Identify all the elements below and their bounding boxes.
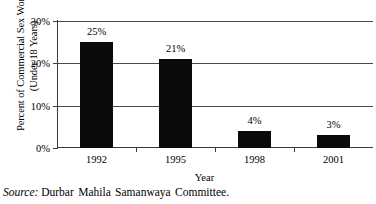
bar-chart-figure: Percent of Commercial Sex Workers (Under… — [0, 0, 376, 204]
y-axis-line — [57, 20, 58, 149]
bar-value-label: 3% — [327, 119, 341, 130]
y-tick-label: 30% — [31, 16, 50, 27]
bar — [238, 131, 271, 148]
plot-area: 0%10%20%30% 25%21%4%3% — [57, 21, 373, 148]
bar — [159, 59, 192, 148]
y-axis-title-line-1: Percent of Commercial Sex Workers — [14, 0, 27, 131]
x-tick-mark — [215, 148, 216, 152]
x-tick-mark — [294, 148, 295, 152]
y-tick-label: 20% — [31, 58, 50, 69]
bar-value-label: 25% — [87, 26, 106, 37]
source-note: Source: Durbar Mahila Samanwaya Committe… — [3, 186, 229, 198]
gridline — [57, 21, 373, 22]
x-tick-label: 1998 — [244, 154, 265, 165]
y-tick-mark — [53, 21, 57, 22]
bar — [80, 42, 113, 148]
y-tick-mark — [53, 148, 57, 149]
x-axis-title: Year — [0, 172, 376, 183]
y-tick-mark — [53, 106, 57, 107]
y-tick-mark — [53, 63, 57, 64]
x-tick-label: 1992 — [86, 154, 107, 165]
y-tick-label: 10% — [31, 100, 50, 111]
bar-value-label: 4% — [248, 115, 262, 126]
bar — [317, 135, 350, 148]
bar-value-label: 21% — [166, 43, 185, 54]
x-axis-title-text: Year — [195, 172, 214, 183]
x-tick-label: 2001 — [323, 154, 344, 165]
source-note-text: Durbar Mahila Samanwaya Committee. — [41, 186, 229, 198]
x-tick-mark — [136, 148, 137, 152]
x-tick-label: 1995 — [165, 154, 186, 165]
y-axis-title-line-2: (Under 18 Years) — [27, 21, 40, 91]
source-note-label: Source: — [3, 186, 38, 198]
y-tick-label: 0% — [36, 143, 50, 154]
